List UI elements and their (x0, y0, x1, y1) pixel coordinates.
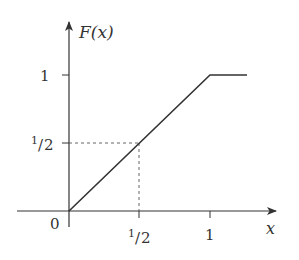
x-tick-half-numerator: 1 (128, 227, 135, 240)
x-tick-half-denominator: 2 (141, 229, 151, 247)
origin-label: 0 (50, 215, 60, 233)
x-axis-label: x (266, 219, 275, 238)
y-axis-label: F(x) (78, 22, 114, 42)
cdf-chart: F(x) x 0 1 1 / 2 1 / 2 1 (0, 0, 299, 260)
x-tick-one-label: 1 (205, 226, 215, 244)
y-tick-one-label: 1 (40, 67, 50, 85)
y-tick-half-denominator: 2 (44, 136, 54, 154)
y-tick-half-numerator: 1 (31, 134, 38, 147)
